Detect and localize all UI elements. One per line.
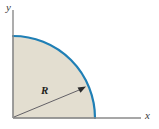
quarter-circle-diagram	[0, 0, 159, 129]
radius-label: R	[41, 85, 48, 96]
figure-container: y x R	[0, 0, 159, 129]
x-axis-label: x	[145, 110, 150, 121]
sector-fill	[13, 36, 95, 118]
y-axis-label: y	[6, 2, 11, 13]
